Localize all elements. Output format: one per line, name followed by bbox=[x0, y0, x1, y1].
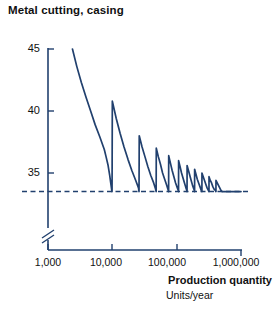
cost-curve bbox=[72, 49, 241, 192]
chart-plot bbox=[0, 0, 280, 309]
chart-container: Metal cutting, casing 45 40 35 1,000 10,… bbox=[0, 0, 280, 309]
